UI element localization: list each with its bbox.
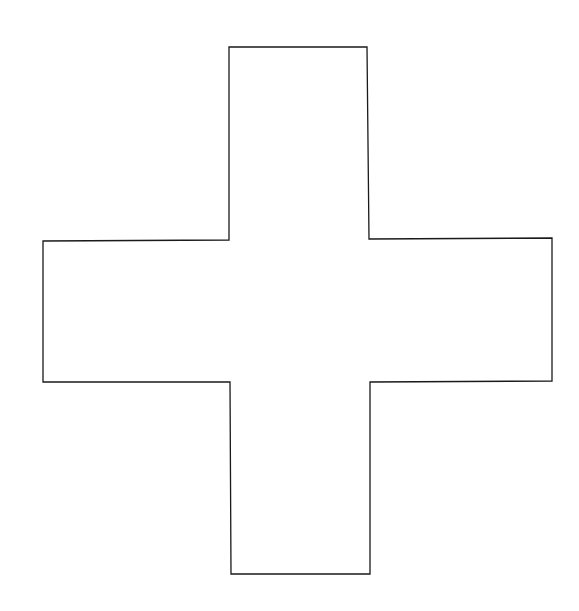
diagram-canvas [0, 0, 579, 611]
